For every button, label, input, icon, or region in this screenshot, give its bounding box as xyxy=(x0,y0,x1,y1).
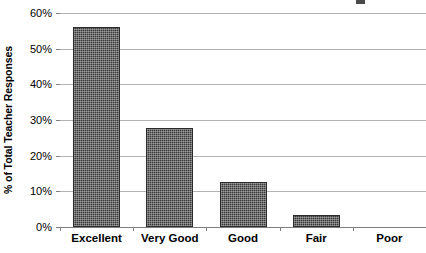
y-axis-tick-mark xyxy=(56,84,60,85)
x-axis-tick-label: Poor xyxy=(353,232,426,244)
bar-very-good xyxy=(146,128,193,227)
x-axis-tick-label: Very Good xyxy=(133,232,206,244)
bar-good xyxy=(220,182,267,227)
bar-fair xyxy=(293,215,340,227)
y-axis-tick-mark xyxy=(56,13,60,14)
x-axis-tick-mark xyxy=(60,227,61,231)
x-axis-tick-mark xyxy=(133,227,134,231)
plot-area xyxy=(60,13,426,227)
x-axis-tick-mark xyxy=(353,227,354,231)
y-axis-tick-label: 50% xyxy=(30,43,52,55)
x-axis-tick-mark xyxy=(206,227,207,231)
y-axis-tick-labels: 0%10%20%30%40%50%60% xyxy=(16,0,56,253)
y-axis-tick-mark xyxy=(56,191,60,192)
bar-excellent xyxy=(73,27,120,227)
x-axis-tick-labels: ExcellentVery GoodGoodFairPoor xyxy=(60,232,426,252)
gridline xyxy=(60,227,426,228)
y-axis-tick-label: 10% xyxy=(30,185,52,197)
bar-chart: % of Total Teacher Responses 0%10%20%30%… xyxy=(0,0,426,253)
x-axis-tick-label: Excellent xyxy=(60,232,133,244)
x-axis-tick-mark xyxy=(280,227,281,231)
y-axis-tick-mark xyxy=(56,120,60,121)
y-axis-tick-label: 20% xyxy=(30,150,52,162)
y-axis-title-label: % of Total Teacher Responses xyxy=(2,46,14,194)
x-axis-tick-label: Good xyxy=(206,232,279,244)
y-axis-tick-mark xyxy=(56,156,60,157)
cropped-title-remnant xyxy=(356,0,365,4)
y-axis-tick-label: 40% xyxy=(30,78,52,90)
gridline xyxy=(60,13,426,14)
y-axis-tick-label: 30% xyxy=(30,114,52,126)
y-axis-title: % of Total Teacher Responses xyxy=(0,0,16,240)
y-axis-tick-label: 60% xyxy=(30,7,52,19)
x-axis-tick-label: Fair xyxy=(280,232,353,244)
y-axis-tick-label: 0% xyxy=(36,221,52,233)
y-axis-tick-mark xyxy=(56,49,60,50)
